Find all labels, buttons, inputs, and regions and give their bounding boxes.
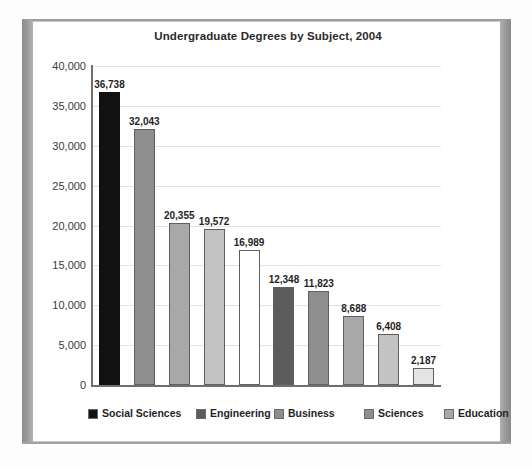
legend-swatch-icon — [274, 409, 284, 419]
bar — [343, 316, 364, 385]
y-axis-tick-label: 10,000 — [24, 299, 86, 311]
legend-item-label: Business — [288, 408, 335, 419]
bar — [169, 223, 190, 385]
legend-item-label: Education — [458, 408, 509, 419]
chart-title: Undergraduate Degrees by Subject, 2004 — [40, 30, 496, 42]
bar-value-label: 11,823 — [304, 278, 334, 289]
bar-value-label: 16,989 — [234, 237, 265, 248]
bar — [99, 92, 120, 385]
legend-swatch-icon — [444, 409, 454, 419]
y-axis-tick-label: 30,000 — [24, 140, 86, 152]
frame-right-band — [500, 20, 511, 444]
bar — [273, 287, 294, 385]
bar — [413, 368, 434, 385]
bar-value-label: 32,043 — [129, 116, 160, 127]
legend-item[interactable]: Business — [274, 408, 364, 419]
bar-value-label: 6,408 — [376, 321, 401, 332]
bar — [378, 334, 399, 385]
bar-value-label: 8,688 — [341, 303, 366, 314]
bar-value-label: 2,187 — [411, 355, 436, 366]
frame-bottom-rule — [22, 442, 511, 444]
bar-value-label: 19,572 — [199, 216, 230, 227]
legend-swatch-icon — [88, 409, 98, 419]
y-axis-tick-label: 0 — [24, 379, 86, 391]
legend-swatch-icon — [196, 409, 206, 419]
bar — [204, 229, 225, 385]
y-axis-tick-label: 35,000 — [24, 100, 86, 112]
legend-item[interactable]: Sciences — [364, 408, 444, 419]
x-axis-line — [91, 385, 441, 387]
bar-series: 36,73832,04320,35519,57216,98912,34811,8… — [92, 66, 441, 385]
y-axis-tick-labels: 05,00010,00015,00020,00025,00030,00035,0… — [24, 0, 86, 467]
legend-item[interactable]: Education — [444, 408, 532, 419]
bar — [239, 250, 260, 385]
legend-item-label: Social Sciences — [102, 408, 181, 419]
chart-legend: Social SciencesEngineeringBusinessScienc… — [88, 406, 492, 421]
legend-item-label: Engineering — [210, 408, 271, 419]
bar-value-label: 36,738 — [94, 79, 125, 90]
legend-item-label: Sciences — [378, 408, 424, 419]
bar-value-label: 12,348 — [269, 274, 300, 285]
legend-item[interactable]: Social Sciences — [88, 408, 196, 419]
y-axis-tick-label: 20,000 — [24, 220, 86, 232]
legend-swatch-icon — [364, 409, 374, 419]
bar — [134, 129, 155, 385]
legend-item[interactable]: Engineering — [196, 408, 274, 419]
y-axis-tick-label: 15,000 — [24, 259, 86, 271]
y-axis-tick-label: 40,000 — [24, 60, 86, 72]
bar — [308, 291, 329, 385]
y-axis-tick-label: 5,000 — [24, 339, 86, 351]
bar-value-label: 20,355 — [164, 210, 195, 221]
y-axis-tick-label: 25,000 — [24, 180, 86, 192]
page-background: Undergraduate Degrees by Subject, 2004 0… — [0, 0, 532, 467]
